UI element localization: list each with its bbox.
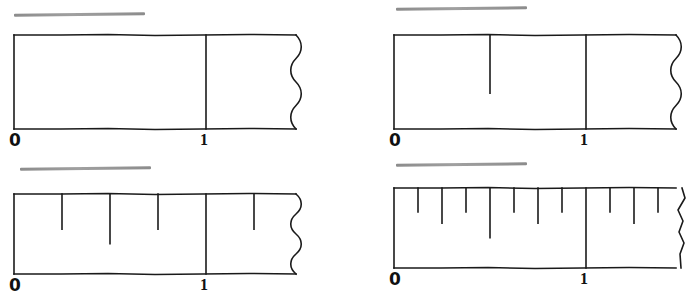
ruler-panel-quarters: 0 1 [0, 153, 346, 305]
redacted-caption-bar [20, 166, 151, 171]
torn-right-edge [671, 35, 682, 129]
ruler-top-edge [14, 35, 296, 36]
ruler-figure-whole-units [13, 33, 310, 131]
ruler-bottom-edge [14, 129, 296, 130]
ruler-drawing [393, 33, 690, 131]
ruler-drawing [13, 192, 310, 276]
torn-right-edge [291, 194, 302, 274]
ruler-bottom-edge [394, 268, 676, 269]
ruler-bottom-edge [394, 129, 676, 130]
redacted-caption-bar [14, 12, 145, 17]
axis-label-zero: 0 [9, 132, 20, 149]
torn-right-edge [678, 188, 685, 268]
ruler-drawing [393, 186, 690, 270]
ruler-figure-quarters [13, 192, 310, 276]
ruler-top-edge [394, 35, 676, 36]
axis-label-one: 1 [200, 132, 208, 148]
ruler-figure-halves [393, 33, 690, 131]
ruler-panel-halves: 0 1 [346, 0, 692, 152]
axis-label-one: 1 [200, 277, 208, 293]
torn-right-edge [291, 35, 302, 129]
axis-label-zero: 0 [389, 271, 400, 288]
ruler-figure-eighths [393, 186, 690, 270]
axis-label-one: 1 [580, 271, 588, 287]
redacted-caption-bar [396, 6, 527, 11]
ruler-bottom-edge [14, 274, 296, 275]
ruler-panel-whole-units: 0 1 [0, 0, 346, 152]
axis-label-one: 1 [580, 132, 588, 148]
axis-label-zero: 0 [389, 132, 400, 149]
worksheet-sheet: 0 1 0 1 0 1 0 1 [0, 0, 692, 305]
ruler-panel-eighths: 0 1 [346, 153, 692, 305]
axis-label-zero: 0 [9, 277, 20, 294]
redacted-caption-bar [396, 162, 527, 167]
ruler-drawing [13, 33, 310, 131]
